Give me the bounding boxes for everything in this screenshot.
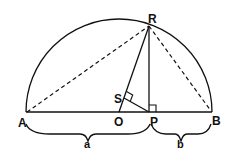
segment-ps [124, 98, 149, 112]
right-angle-mark-p [149, 105, 156, 112]
label-p: P [150, 115, 158, 129]
label-b: B [212, 114, 221, 128]
label-segment-a: a [84, 138, 91, 150]
label-a: A [18, 116, 27, 130]
label-s: S [114, 92, 122, 106]
label-segment-b: b [177, 138, 184, 150]
semicircle-diagram: R A O P B S a b [0, 0, 231, 160]
radius-or [119, 26, 149, 112]
label-r: R [148, 12, 157, 26]
label-o: O [114, 115, 123, 129]
